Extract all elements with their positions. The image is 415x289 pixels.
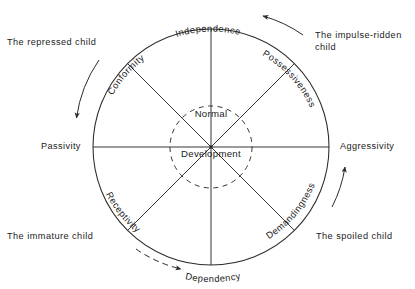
flow-arrow-left-icon bbox=[77, 60, 100, 118]
center-label-development: Development bbox=[161, 148, 261, 159]
rim-label-demandingness: Demandingness bbox=[264, 181, 317, 241]
quadrant-label-impulse-ridden-child: The impulse-ridden child bbox=[315, 30, 413, 53]
rim-label-conformity: Conformity bbox=[106, 52, 147, 96]
quadrant-label-repressed-child: The repressed child bbox=[7, 37, 113, 49]
rim-label-possessiveness: Possessiveness bbox=[261, 48, 318, 109]
quadrant-label-spoiled-child: The spoiled child bbox=[316, 231, 414, 243]
rim-label-dependency: Dependency bbox=[185, 271, 242, 284]
center-label-normal: Normal bbox=[161, 108, 261, 119]
flow-arrow-top-icon bbox=[263, 16, 303, 35]
rim-label-passivity: Passivity bbox=[41, 141, 81, 151]
rim-label-receptivity: Receptivity bbox=[104, 190, 142, 234]
rim-label-independence: Independence bbox=[174, 24, 242, 39]
rim-label-aggressivity: Aggressivity bbox=[340, 141, 394, 151]
circle-diagram: Independence Possessiveness Conformity R… bbox=[0, 0, 415, 289]
flow-arrow-right-icon bbox=[332, 167, 345, 207]
quadrant-label-immature-child: The immature child bbox=[7, 231, 117, 243]
